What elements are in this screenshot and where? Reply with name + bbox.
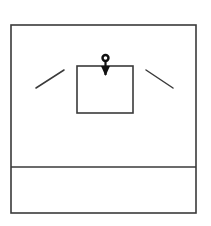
diagram-canvas xyxy=(0,0,211,226)
diagram-svg xyxy=(0,0,211,226)
